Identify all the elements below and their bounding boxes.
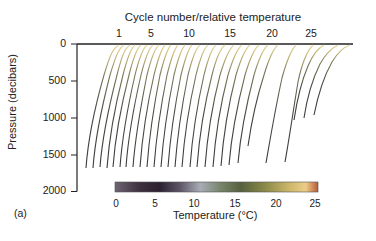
temperature-profiles (86, 45, 350, 168)
colorbar-tick-15: 15 (223, 198, 247, 209)
colorbar-tick-0: 0 (104, 198, 128, 209)
colorbar (115, 182, 318, 192)
colorbar-tick-5: 5 (143, 198, 167, 209)
colorbar-tick-25: 25 (303, 198, 327, 209)
colorbar-tick-20: 20 (264, 198, 288, 209)
y-axis-ticks (71, 44, 77, 192)
colorbar-label: Temperature (°C) (173, 209, 257, 221)
panel-label: (a) (14, 207, 27, 219)
colorbar-tick-10: 10 (182, 198, 206, 209)
